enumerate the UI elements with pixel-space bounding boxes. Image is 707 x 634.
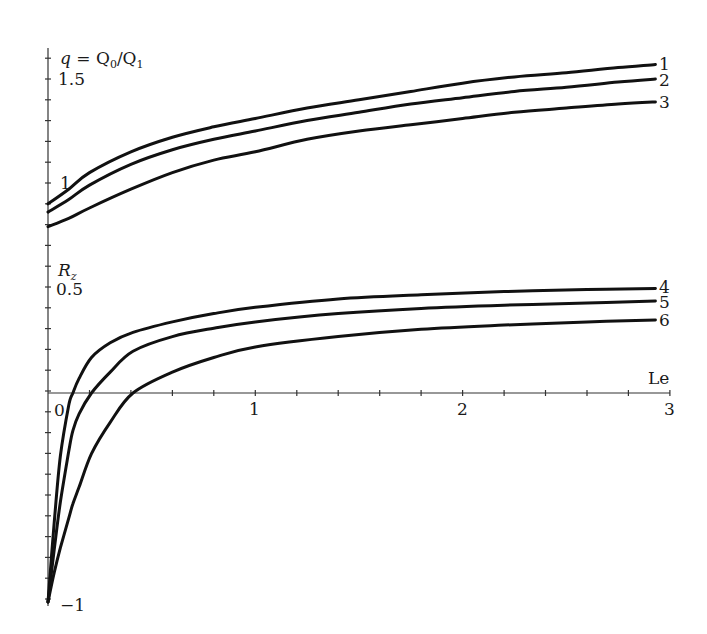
curve-5: [48, 301, 655, 602]
curve-label-3: 3: [659, 92, 670, 112]
q-tick-label-1.5: 1.5: [58, 69, 85, 89]
q-axis-label: q = Q0/Q1: [60, 48, 144, 71]
rz-tick-label-0.5: 0.5: [56, 279, 83, 299]
rz-tick-label-0: 0: [54, 400, 65, 420]
curve-6: [48, 320, 655, 602]
q-tick-label-1: 1: [60, 173, 71, 193]
curve-3: [48, 102, 655, 227]
curve-1: [48, 64, 655, 203]
curves: [48, 64, 655, 602]
x-tick-label-1: 1: [249, 399, 260, 419]
chart: q = Q0/Q1 1.5 1 Rz 0.5 0 −1 Le 1 2 3 1 2…: [0, 0, 707, 634]
curve-label-6: 6: [659, 310, 670, 330]
x-tick-label-2: 2: [457, 399, 468, 419]
curve-label-5: 5: [659, 292, 670, 312]
x-axis-label: Le: [648, 368, 669, 388]
curve-label-2: 2: [659, 70, 670, 90]
curve-2: [48, 79, 655, 212]
x-tick-label-3: 3: [664, 399, 675, 419]
rz-tick-label-minus-1: −1: [60, 595, 85, 615]
